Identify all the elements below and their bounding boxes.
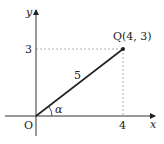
origin-label: O: [24, 119, 33, 132]
angle-arc: [49, 106, 52, 116]
x-tick-label: 4: [119, 119, 126, 132]
point-q-label: Q(4, 3): [113, 30, 152, 43]
y-axis-label: y: [25, 6, 33, 19]
angle-label: α: [55, 103, 63, 116]
segment-length-label: 5: [74, 69, 81, 82]
segment-oq: [36, 49, 123, 116]
coordinate-diagram: y x O 3 4 Q(4, 3) 5 α: [0, 0, 164, 144]
x-axis-label: x: [150, 118, 157, 131]
y-tick-label: 3: [25, 43, 32, 56]
point-q: [121, 47, 125, 51]
